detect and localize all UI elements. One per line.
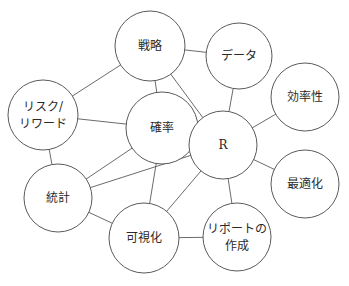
node-toukei: 統計	[24, 164, 92, 232]
node-label: リワード	[19, 117, 67, 131]
node-senryaku: 戦略	[115, 11, 185, 81]
node-label: リポートの	[207, 222, 267, 236]
node-saitekika: 最適化	[271, 150, 339, 218]
node-r: R	[189, 111, 257, 179]
node-data: データ	[206, 23, 272, 89]
network-diagram: 戦略データリスク/リワード確率R効率性統計最適化可視化リポートの作成	[0, 0, 349, 286]
node-kashika: 可視化	[109, 203, 179, 273]
node-label: リスク/	[23, 100, 64, 114]
node-risk: リスク/リワード	[8, 80, 78, 150]
node-kakuritsu: 確率	[126, 92, 198, 164]
node-circle	[203, 203, 271, 271]
node-label: 可視化	[126, 230, 162, 245]
node-label: 戦略	[138, 38, 162, 53]
nodes-layer: 戦略データリスク/リワード確率R効率性統計最適化可視化リポートの作成	[8, 11, 339, 273]
node-report: リポートの作成	[203, 203, 271, 271]
node-label: 最適化	[287, 176, 323, 191]
node-kouritsusei: 効率性	[271, 63, 339, 131]
node-label: データ	[221, 48, 257, 63]
node-label: R	[218, 138, 228, 152]
node-label: 作成	[225, 239, 249, 253]
node-circle	[8, 80, 78, 150]
node-label: 確率	[150, 120, 174, 135]
node-label: 統計	[46, 190, 70, 205]
node-label: 効率性	[287, 89, 323, 104]
